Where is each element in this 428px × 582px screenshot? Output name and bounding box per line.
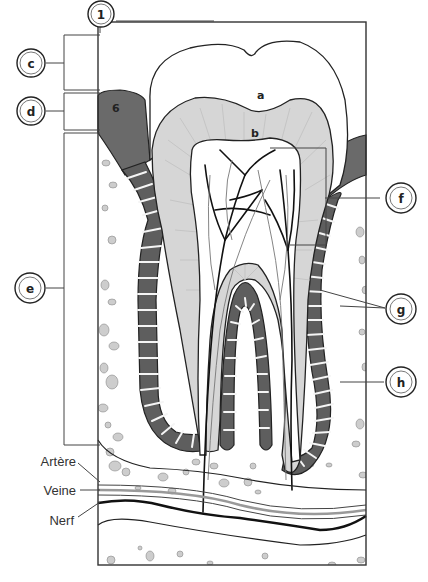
callout-g-label: g	[397, 303, 406, 317]
callout-f-label: f	[398, 192, 404, 206]
tooth-cross-section-diagram: a b 6 1 c	[0, 0, 428, 582]
label-artere: Artère	[41, 454, 76, 469]
callout-c-label: c	[27, 57, 34, 71]
callout-h: h	[386, 367, 416, 397]
label-nerf: Nerf	[49, 513, 74, 528]
label-b-dentin: b	[251, 127, 259, 140]
callout-1: 1	[88, 1, 114, 27]
label-6-gum: 6	[112, 102, 120, 115]
label-a-enamel: a	[257, 89, 264, 102]
callout-h-label: h	[397, 376, 406, 390]
callout-d-label: d	[27, 105, 36, 119]
callout-c: c	[17, 49, 45, 77]
callout-d: d	[17, 97, 45, 125]
callout-g: g	[386, 294, 416, 324]
callout-e: e	[15, 273, 45, 303]
callout-f: f	[386, 183, 416, 213]
callout-1-label: 1	[97, 8, 105, 22]
label-veine: Veine	[43, 483, 76, 498]
callout-e-label: e	[26, 282, 34, 296]
